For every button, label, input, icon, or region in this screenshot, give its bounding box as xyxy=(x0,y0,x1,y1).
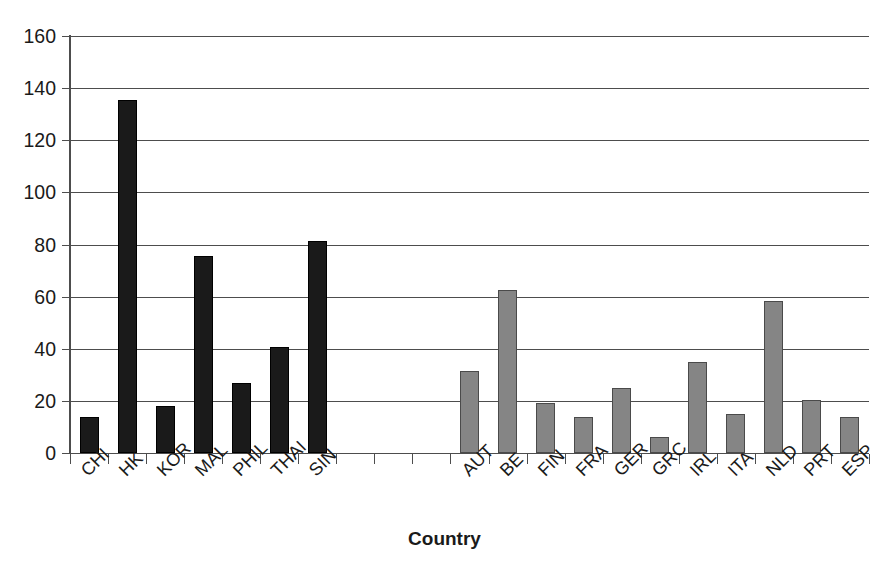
x-tick-mark xyxy=(70,454,71,464)
bar-aut xyxy=(460,371,479,453)
bar-fin xyxy=(536,403,555,453)
bars-layer xyxy=(70,36,869,453)
x-tick-mark xyxy=(412,454,413,464)
bar-irl xyxy=(688,362,707,453)
bar-sin xyxy=(308,241,327,453)
y-tick-label: 20 xyxy=(34,389,56,412)
bar-thai xyxy=(270,347,289,453)
bar-ger xyxy=(612,388,631,453)
x-tick-mark xyxy=(374,454,375,464)
bar-prt xyxy=(802,400,821,453)
y-tick-label: 80 xyxy=(34,233,56,256)
bar-mal xyxy=(194,256,213,453)
y-tick-label: 160 xyxy=(23,25,56,48)
y-tick-label: 40 xyxy=(34,337,56,360)
x-tick-mark xyxy=(450,454,451,464)
y-tick-label: 120 xyxy=(23,129,56,152)
x-axis-labels: CHIHKKORMALPHILTHAISINAUTBEFINFRAGERGRCI… xyxy=(70,466,869,526)
bar-phil xyxy=(232,383,251,453)
y-tick-label: 0 xyxy=(45,442,56,465)
y-axis-labels: 020406080100120140160 xyxy=(0,0,56,567)
bar-hk xyxy=(118,100,137,453)
x-axis-title: Country xyxy=(0,528,889,550)
bar-nld xyxy=(764,301,783,453)
bar-chart: 020406080100120140160 CHIHKKORMALPHILTHA… xyxy=(0,0,889,567)
y-tick-label: 140 xyxy=(23,77,56,100)
bar-be xyxy=(498,290,517,453)
y-tick-label: 100 xyxy=(23,181,56,204)
y-tick-label: 60 xyxy=(34,285,56,308)
